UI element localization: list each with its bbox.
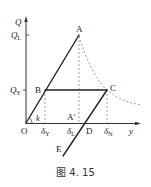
- point-b-label: B: [35, 85, 41, 95]
- slope-angle-arc: [30, 118, 33, 123]
- slope-k-label: k: [36, 114, 40, 123]
- point-a-label: A: [76, 24, 83, 34]
- delta-y-label: δY: [41, 126, 50, 137]
- x-axis-arrow-icon: [135, 122, 141, 125]
- y-axis-label: Q: [15, 17, 22, 27]
- delta-n-label: δN: [104, 126, 113, 137]
- envelope-curve: [79, 36, 142, 105]
- y-axis-arrow-icon: [24, 16, 27, 22]
- figure-caption: 图 4. 15: [0, 164, 151, 179]
- segment-oa: [26, 35, 79, 123]
- x-axis-label: y: [128, 126, 133, 136]
- point-c-label: C: [110, 83, 116, 93]
- qy-label: QY: [10, 85, 22, 96]
- ql-label: QL: [11, 30, 22, 41]
- point-e-label: E: [56, 144, 62, 154]
- delta-l-label: δL: [67, 126, 75, 137]
- load-path: [26, 35, 107, 156]
- point-d-label: D: [86, 126, 93, 136]
- point-a-prime-label: A′: [67, 112, 75, 122]
- origin-label: O: [21, 126, 28, 136]
- force-displacement-diagram: Q QL QY A B C A′ k O δY δL D δN y E: [0, 0, 151, 187]
